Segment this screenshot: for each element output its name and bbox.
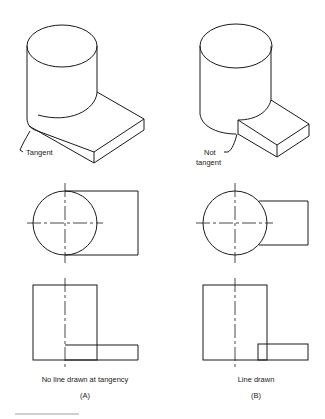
- not-tangent-label-1: Not: [204, 148, 217, 157]
- cylinder-b-slab-arc: [238, 100, 271, 120]
- slab-a-front: [65, 345, 138, 360]
- cylinder-a-bottom-arc: [38, 93, 97, 118]
- slab-b-top-right-edge: [277, 124, 309, 145]
- label-b: (B): [251, 391, 262, 400]
- slab-b-bottom-right: [277, 136, 309, 157]
- not-tangent-label-2: tangent: [196, 158, 222, 167]
- cylinder-a-top: [27, 25, 97, 67]
- panel-b-isometric: Not tangent: [196, 24, 309, 167]
- slab-b-top-front-edge: [238, 120, 277, 145]
- caption-b: Line drawn: [238, 375, 275, 384]
- slab-a-top-back-edge: [97, 92, 144, 119]
- caption-a: No line drawn at tangency: [42, 375, 129, 384]
- panel-b-front-view: [203, 278, 308, 367]
- slab-b-bottom-left: [238, 134, 277, 157]
- panel-a-isometric: Tangent: [20, 25, 144, 163]
- slab-b-front: [258, 344, 308, 360]
- panel-a-top-view: [27, 183, 138, 263]
- panel-b-top-view: [196, 183, 308, 263]
- cylinder-b-bottom-arc: [200, 114, 236, 134]
- panel-a-front-view: [33, 278, 138, 367]
- slab-a-bottom-left: [29, 126, 94, 163]
- cylinder-b-top: [200, 24, 272, 68]
- not-tangent-leader: [224, 134, 237, 152]
- label-a: (A): [80, 391, 91, 400]
- tangent-label: Tangent: [26, 148, 54, 157]
- technical-drawing: Tangent Not tangent: [0, 0, 325, 419]
- slab-b-top-back-edge: [271, 100, 309, 124]
